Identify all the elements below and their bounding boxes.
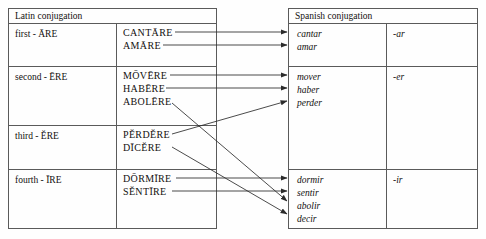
latin-verb-cantare: CANTĀRE bbox=[123, 27, 173, 40]
spanish-ending-ar: -ar bbox=[393, 28, 405, 41]
latin-verb-dormire: DŌRMĪRE bbox=[123, 173, 172, 186]
latin-conjugation-table: Latin conjugation first - ĀRE CANTĀRE AM… bbox=[8, 8, 217, 229]
latin-row-rule-3 bbox=[9, 169, 216, 170]
spanish-verb-mover: mover bbox=[297, 71, 321, 84]
spanish-row-rule-2 bbox=[289, 169, 477, 170]
spanish-table-header: Spanish conjugation bbox=[295, 10, 372, 23]
spanish-verb-haber: haber bbox=[297, 84, 319, 97]
spanish-row-rule-1 bbox=[289, 66, 477, 67]
latin-column-divider bbox=[116, 23, 117, 228]
spanish-header-rule bbox=[289, 23, 477, 24]
latin-row-label-1: first - ĀRE bbox=[15, 28, 57, 41]
spanish-verb-dormir: dormir bbox=[297, 174, 323, 187]
latin-verb-perdere: PĔRDĔRE bbox=[123, 129, 170, 142]
latin-header-rule bbox=[9, 23, 216, 24]
spanish-verb-sentir: sentir bbox=[297, 187, 319, 200]
spanish-ending-ir: -ir bbox=[393, 174, 403, 187]
spanish-verb-cantar: cantar bbox=[297, 28, 322, 41]
latin-table-header: Latin conjugation bbox=[15, 10, 82, 23]
spanish-verb-abolir: abolir bbox=[297, 200, 320, 213]
latin-row-label-4: fourth - ĪRE bbox=[15, 174, 61, 187]
spanish-column-divider bbox=[386, 23, 387, 228]
latin-verb-habere: HABĒRE bbox=[123, 83, 165, 96]
spanish-verb-decir: decir bbox=[297, 213, 317, 226]
spanish-verb-amar: amar bbox=[297, 41, 317, 54]
latin-verb-dicere: DĪCĔRE bbox=[123, 142, 161, 155]
latin-row-rule-1 bbox=[9, 66, 216, 67]
spanish-ending-er: -er bbox=[393, 71, 404, 84]
latin-verb-amare: AMĀRE bbox=[123, 40, 161, 53]
conjugation-diagram: Latin conjugation first - ĀRE CANTĀRE AM… bbox=[0, 0, 486, 239]
latin-row-label-2: second - ĒRE bbox=[15, 71, 67, 84]
latin-row-rule-2 bbox=[9, 125, 216, 126]
spanish-conjugation-table: Spanish conjugation cantar amar -ar move… bbox=[288, 8, 478, 229]
spanish-verb-perder: perder bbox=[297, 97, 322, 110]
latin-verb-sentire: SĔNTĪRE bbox=[123, 186, 167, 199]
latin-verb-abolere: ABOLĒRE bbox=[123, 96, 172, 109]
latin-row-label-3: third - ĔRE bbox=[15, 130, 59, 143]
latin-verb-movere: MŌVĒRE bbox=[123, 70, 167, 83]
